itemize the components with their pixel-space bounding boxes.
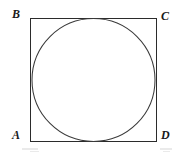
vertex-label-b: B — [12, 8, 20, 20]
vertex-label-d: D — [161, 129, 170, 141]
vertex-label-c: C — [161, 10, 169, 22]
geometry-figure: B C A D — [0, 0, 176, 155]
inscribed-circle-shape — [32, 19, 155, 142]
scan-artifact — [160, 148, 172, 150]
scan-artifact — [163, 151, 170, 152]
vertex-label-a: A — [12, 129, 20, 141]
scan-artifact — [30, 151, 39, 152]
figure-canvas — [0, 0, 176, 155]
scan-artifact — [22, 148, 38, 150]
